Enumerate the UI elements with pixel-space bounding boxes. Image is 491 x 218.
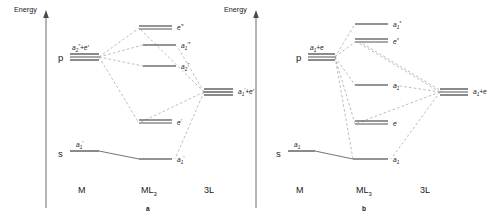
ml3-level-3-b: e: [355, 120, 397, 127]
metal-levels-a: p a2″+e′ s a1′: [58, 44, 99, 159]
metal-levels-b: p a1+e s a1: [276, 44, 335, 159]
metal-orbital-p-label-a: p: [58, 52, 63, 63]
connector-lines-a: [99, 151, 139, 159]
ml3-level-1-label-b: e*: [393, 38, 399, 45]
metal-level-p-b: p a1+e: [296, 44, 335, 63]
mo-diagram-figure: Energy: [0, 0, 491, 218]
svg-text:a2″+e′: a2″+e′: [72, 44, 89, 53]
panel-a: Energy: [14, 5, 255, 212]
energy-axis-label-a: Energy: [14, 5, 37, 14]
ml3-level-2-b: a1: [355, 82, 400, 91]
metal-orbital-s-label-b: s: [276, 148, 281, 159]
ml3-level-1-a: a1′*: [143, 42, 190, 51]
metal-level-s-term-a: a1′: [76, 141, 84, 150]
ml3-level-0-label-b: a1*: [393, 21, 401, 30]
svg-text:a1+e: a1+e: [310, 44, 324, 53]
panel-caption-a: a: [146, 205, 150, 212]
correlation-lines-a: [99, 28, 204, 159]
ligand-level-label-a: a1′+e′: [238, 88, 255, 97]
ml3-level-4-b: a1: [353, 156, 400, 165]
metal-level-s-b: s a1: [276, 141, 315, 159]
panel-b: Energy p: [224, 5, 487, 212]
ml3-level-0-label-a: e′*: [177, 24, 184, 31]
ml3-level-4-label-b: a1: [393, 156, 400, 165]
ml3-level-4-a: a1′: [139, 156, 185, 165]
svg-text:a1: a1: [294, 141, 301, 150]
ml3-levels-a: e′* a1′* a2″ e′: [139, 24, 190, 165]
metal-level-p-term-b: a1+e: [310, 44, 324, 53]
ml3-level-2-label-b: a1: [393, 82, 400, 91]
ml3-level-4-label-a: a1′: [177, 156, 185, 165]
metal-level-s-a: s a1′: [58, 141, 99, 159]
ml3-level-0-a: e′*: [139, 24, 184, 31]
svg-text:a1′: a1′: [76, 141, 84, 150]
column-label-ML3-a: ML3: [141, 185, 158, 197]
correlation-lines-b: [335, 24, 443, 159]
ml3-level-3-label-a: e′: [177, 119, 183, 126]
connector-lines-b: [315, 151, 353, 159]
energy-axis-a: Energy: [14, 5, 49, 208]
ml3-level-1-b: e*: [355, 38, 399, 45]
ligand-level-b: a1+e: [440, 88, 487, 97]
column-label-3L-b: 3L: [420, 185, 430, 195]
column-labels-a: M ML3 3L a: [78, 185, 214, 212]
ml3-level-3-a: e′: [139, 119, 183, 126]
column-label-M-b: M: [296, 185, 304, 195]
ml3-levels-b: a1* e* a1 e: [353, 21, 401, 165]
column-label-M-a: M: [78, 185, 86, 195]
metal-level-p-term-a: a2″+e′: [72, 44, 89, 53]
ml3-level-0-b: a1*: [355, 21, 401, 30]
energy-axis-label-b: Energy: [224, 5, 247, 14]
ligand-level-a: a1′+e′: [204, 88, 255, 97]
metal-level-s-term-b: a1: [294, 141, 301, 150]
column-label-ML3-b: ML3: [356, 185, 373, 197]
metal-orbital-s-label-a: s: [58, 148, 63, 159]
ligand-level-label-b: a1+e: [473, 88, 487, 97]
metal-orbital-p-label-b: p: [296, 52, 301, 63]
panel-caption-b: b: [362, 205, 366, 212]
energy-axis-b: Energy: [224, 5, 259, 208]
ml3-level-3-label-b: e: [393, 120, 397, 127]
column-labels-b: M ML3 3L b: [296, 185, 430, 212]
column-label-3L-a: 3L: [204, 185, 214, 195]
ml3-level-1-label-a: a1′*: [181, 42, 190, 51]
metal-level-p-a: p a2″+e′: [58, 44, 99, 63]
